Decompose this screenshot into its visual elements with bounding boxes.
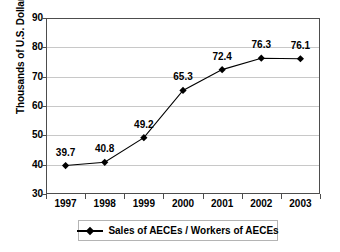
data-point-label: 40.8 xyxy=(85,143,125,154)
data-point-label: 65.3 xyxy=(163,71,203,82)
data-point-marker xyxy=(258,55,265,62)
data-point-marker xyxy=(62,162,69,169)
data-point-label: 72.4 xyxy=(202,51,242,62)
legend-diamond-marker-icon xyxy=(77,226,103,235)
data-point-label: 39.7 xyxy=(46,147,86,158)
y-axis-tick-label: 40 xyxy=(17,160,43,170)
data-point-label: 76.3 xyxy=(241,39,281,50)
y-axis-tick-label: 90 xyxy=(17,13,43,23)
x-axis-tick-label: 2002 xyxy=(241,198,281,209)
y-axis-tick-label: 70 xyxy=(17,72,43,82)
x-axis-tick-label: 2003 xyxy=(280,198,320,209)
y-axis-tick-label: 30 xyxy=(17,189,43,199)
line-chart: Thousands of U.S. Dollars 30405060708090… xyxy=(0,0,340,252)
y-axis-tick-label: 60 xyxy=(17,101,43,111)
legend: Sales of AECEs / Workers of AECEs xyxy=(78,220,278,241)
x-axis-tick-label: 1999 xyxy=(124,198,164,209)
legend-entry-label: Sales of AECEs / Workers of AECEs xyxy=(108,225,278,236)
y-axis-tick-label: 80 xyxy=(17,42,43,52)
x-axis-tick-label: 2000 xyxy=(163,198,203,209)
data-point-label: 49.2 xyxy=(124,119,164,130)
data-point-label: 76.1 xyxy=(280,40,320,51)
data-point-marker xyxy=(101,159,108,166)
x-axis-tick-label: 1997 xyxy=(46,198,86,209)
x-axis-tick-label: 2001 xyxy=(202,198,242,209)
x-axis-tick-label: 1998 xyxy=(85,198,125,209)
data-point-marker xyxy=(297,55,304,62)
data-point-marker xyxy=(219,66,226,73)
y-axis-tick-label: 50 xyxy=(17,130,43,140)
